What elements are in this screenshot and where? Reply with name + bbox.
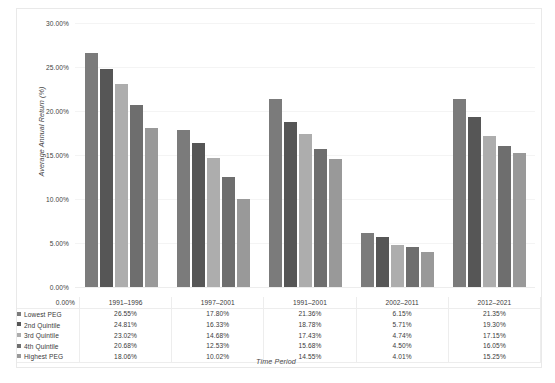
- table-cell-value: 26.55%: [80, 308, 172, 319]
- legend-item: 3rd Quintile: [17, 330, 80, 341]
- legend-item: Lowest PEG: [17, 308, 80, 319]
- bar-group: [167, 9, 259, 297]
- bars-layer: [75, 9, 535, 297]
- legend-item-label: 4th Quintile: [24, 343, 59, 350]
- bar: [100, 69, 113, 287]
- table-cell-value: 24.81%: [80, 319, 172, 330]
- legend-swatch-icon: [17, 322, 21, 326]
- table-cell-value: 15.68%: [264, 340, 356, 351]
- table-column-header: 1991–1996: [80, 297, 172, 308]
- table-column-header: 2012–2021: [448, 297, 540, 308]
- data-table: 0.00%1991–19961997–20011991–20012002–201…: [17, 297, 541, 363]
- x-axis-title: Time Period: [17, 357, 535, 366]
- table-corner-cell: 0.00%: [17, 297, 80, 308]
- y-axis-tick-label: 5.00%: [17, 240, 69, 247]
- legend-item-label: Lowest PEG: [24, 311, 62, 318]
- plot-area: Average Annual Return (%) 30.00%25.00%20…: [17, 9, 541, 297]
- bar: [483, 136, 496, 287]
- table-row: 2nd Quintile24.81%16.33%18.78%5.71%19.30…: [17, 319, 541, 330]
- table-cell-value: 19.30%: [448, 319, 540, 330]
- bar: [177, 130, 190, 287]
- table-cell-value: 4.50%: [356, 340, 448, 351]
- table-cell-value: 16.33%: [172, 319, 264, 330]
- bar: [222, 177, 235, 287]
- table-cell-value: 16.05%: [448, 340, 540, 351]
- y-axis-tick-label: 25.00%: [17, 64, 69, 71]
- bar-group: [75, 9, 167, 297]
- bar: [329, 159, 342, 287]
- bar: [513, 153, 526, 287]
- table-row: 4th Quintile20.68%12.53%15.68%4.50%16.05…: [17, 340, 541, 351]
- bar: [498, 146, 511, 287]
- bar: [269, 99, 282, 287]
- table-cell-value: 20.68%: [80, 340, 172, 351]
- y-axis-tick-label: 0.00%: [17, 284, 69, 291]
- bar: [453, 99, 466, 287]
- y-axis-tick-label: 15.00%: [17, 152, 69, 159]
- bar-group: [443, 9, 535, 297]
- table-row: 3rd Quintile23.02%14.68%17.43%4.74%17.15…: [17, 330, 541, 341]
- table-cell-value: 12.53%: [172, 340, 264, 351]
- bar: [130, 105, 143, 287]
- bar: [299, 134, 312, 287]
- bar: [468, 117, 481, 287]
- bar: [421, 252, 434, 287]
- legend-item: 4th Quintile: [17, 340, 80, 351]
- bar: [376, 237, 389, 287]
- bar: [207, 158, 220, 287]
- table-cell-value: 5.71%: [356, 319, 448, 330]
- table-cell-value: 14.68%: [172, 330, 264, 341]
- bar: [391, 245, 404, 287]
- legend-swatch-icon: [17, 333, 21, 337]
- legend-item: 2nd Quintile: [17, 319, 80, 330]
- table-cell-value: 21.35%: [448, 308, 540, 319]
- bar: [237, 199, 250, 287]
- bar: [284, 122, 297, 287]
- bar-group: [259, 9, 351, 297]
- chart-container: Average Annual Return (%) 30.00%25.00%20…: [16, 8, 542, 368]
- legend-swatch-icon: [17, 344, 21, 348]
- table-row: Lowest PEG26.55%17.80%21.36%6.15%21.35%: [17, 308, 541, 319]
- y-axis-tick-label: 30.00%: [17, 20, 69, 27]
- table-column-header: 1997–2001: [172, 297, 264, 308]
- table-column-header: 2002–2011: [356, 297, 448, 308]
- legend-item-label: 3rd Quintile: [24, 332, 59, 339]
- table-cell-value: 17.15%: [448, 330, 540, 341]
- bar: [314, 149, 327, 287]
- bar-group: [351, 9, 443, 297]
- bar: [115, 84, 128, 287]
- bar: [406, 247, 419, 287]
- y-axis-tick-label: 20.00%: [17, 108, 69, 115]
- legend-data-table-region: 0.00%1991–19961997–20011991–20012002–201…: [17, 297, 541, 367]
- table-cell-value: 18.78%: [264, 319, 356, 330]
- bar: [192, 143, 205, 287]
- bar: [145, 128, 158, 287]
- bar: [85, 53, 98, 287]
- table-cell-value: 6.15%: [356, 308, 448, 319]
- legend-item-label: 2nd Quintile: [24, 321, 60, 328]
- table-cell-value: 23.02%: [80, 330, 172, 341]
- table-header-row: 0.00%1991–19961997–20011991–20012002–201…: [17, 297, 541, 308]
- y-axis-tick-label: 10.00%: [17, 196, 69, 203]
- table-cell-value: 17.80%: [172, 308, 264, 319]
- table-cell-value: 4.74%: [356, 330, 448, 341]
- bar: [361, 233, 374, 287]
- legend-swatch-icon: [17, 312, 21, 316]
- table-cell-value: 17.43%: [264, 330, 356, 341]
- table-column-header: 1991–2001: [264, 297, 356, 308]
- table-cell-value: 21.36%: [264, 308, 356, 319]
